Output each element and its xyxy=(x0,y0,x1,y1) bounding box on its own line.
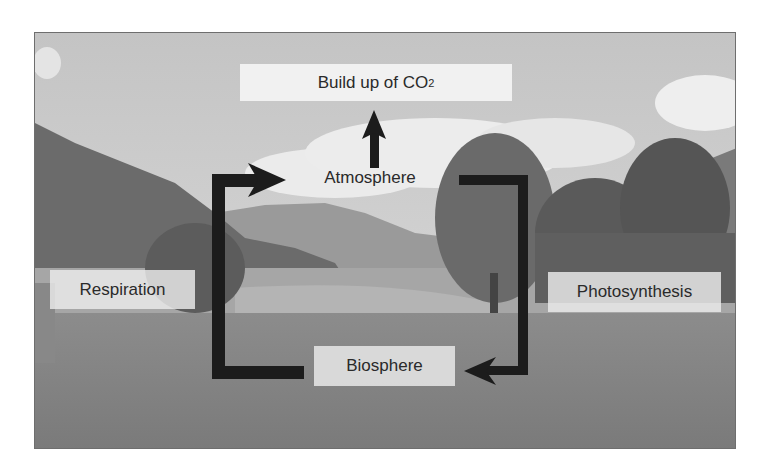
photosynthesis-text: Photosynthesis xyxy=(577,282,692,302)
respiration-label: Respiration xyxy=(50,270,195,309)
respiration-text: Respiration xyxy=(80,280,166,300)
photosynthesis-label: Photosynthesis xyxy=(548,272,721,312)
arrow-photosynthesis-icon xyxy=(459,175,528,385)
biosphere-label: Biosphere xyxy=(314,346,455,386)
atmosphere-label: Atmosphere xyxy=(290,160,450,196)
biosphere-text: Biosphere xyxy=(346,356,423,376)
co2-text: Build up of CO xyxy=(318,73,429,93)
co2-buildup-label: Build up of CO2 xyxy=(240,64,512,101)
atmosphere-text: Atmosphere xyxy=(324,168,416,188)
